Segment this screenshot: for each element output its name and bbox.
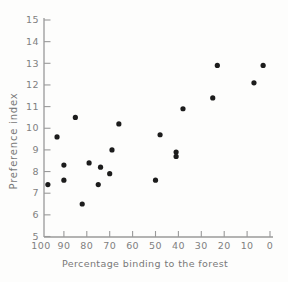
x-tick-label: 60 xyxy=(126,240,139,251)
y-tick-label: 8 xyxy=(33,166,39,177)
data-point xyxy=(80,201,85,206)
x-tick-label: 70 xyxy=(103,240,116,251)
data-point xyxy=(107,171,112,176)
data-point xyxy=(61,162,66,167)
data-point xyxy=(157,132,162,137)
y-tick-label: 7 xyxy=(33,187,39,198)
data-point xyxy=(54,134,59,139)
y-tick-label: 13 xyxy=(26,58,39,69)
chart-canvas: 567891011121314151009080706050403020100 xyxy=(0,0,288,282)
scatter-plot-figure: 567891011121314151009080706050403020100 … xyxy=(0,0,288,282)
data-point xyxy=(86,160,91,165)
y-tick-label: 6 xyxy=(33,209,39,220)
x-tick-label: 40 xyxy=(172,240,185,251)
x-tick-label: 30 xyxy=(195,240,208,251)
x-tick-label: 10 xyxy=(241,240,254,251)
data-point xyxy=(215,63,220,68)
x-tick-label: 80 xyxy=(80,240,93,251)
y-tick-label: 12 xyxy=(26,79,39,90)
y-tick-label: 11 xyxy=(26,101,39,112)
data-point xyxy=(180,106,185,111)
x-tick-label: 90 xyxy=(57,240,70,251)
x-tick-label: 20 xyxy=(218,240,231,251)
data-point xyxy=(116,121,121,126)
x-tick-label: 0 xyxy=(267,240,273,251)
y-tick-label: 14 xyxy=(26,36,39,47)
data-point xyxy=(45,182,50,187)
data-point xyxy=(96,182,101,187)
data-point xyxy=(153,178,158,183)
data-point xyxy=(251,80,256,85)
y-axis-title: Preference index xyxy=(8,93,19,190)
data-point xyxy=(61,178,66,183)
y-tick-label: 9 xyxy=(33,144,39,155)
x-axis-title: Percentage binding to the forest xyxy=(62,258,228,269)
data-point xyxy=(261,63,266,68)
data-point xyxy=(174,154,179,159)
y-tick-label: 10 xyxy=(26,122,39,133)
x-tick-label: 50 xyxy=(149,240,162,251)
data-point xyxy=(210,95,215,100)
data-point xyxy=(98,165,103,170)
x-tick-label: 100 xyxy=(31,240,50,251)
y-tick-label: 15 xyxy=(26,14,39,25)
data-point xyxy=(73,115,78,120)
data-point xyxy=(109,147,114,152)
